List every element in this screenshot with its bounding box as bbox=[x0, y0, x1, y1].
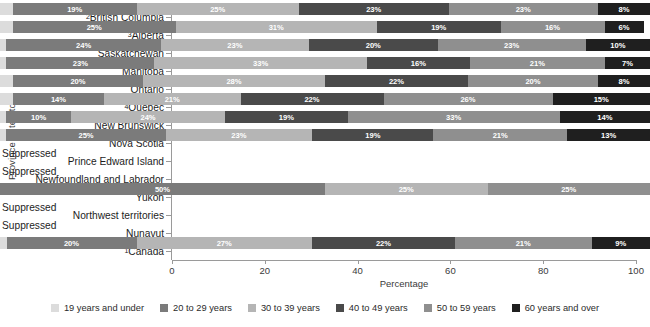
legend-item[interactable]: 40 to 49 years bbox=[336, 303, 408, 313]
bar-segment: 21% bbox=[455, 237, 592, 249]
x-axis-tick bbox=[358, 260, 359, 264]
y-axis-tick bbox=[166, 161, 171, 162]
stacked-bar: 23%33%16%21%7% bbox=[0, 57, 650, 69]
stacked-bar-chart: Province or territory 2British Columbia3… bbox=[0, 0, 650, 327]
y-axis-tick bbox=[166, 251, 171, 252]
bar-segment: 19% bbox=[13, 3, 137, 15]
bar-segment: 8% bbox=[598, 3, 650, 15]
bar-segment: 14% bbox=[560, 111, 650, 123]
stacked-bar: 20%27%22%21%9% bbox=[0, 237, 650, 249]
bar-segment: 25% bbox=[137, 3, 300, 15]
legend-label: 19 years and under bbox=[64, 303, 144, 313]
y-axis-tick bbox=[166, 233, 171, 234]
legend-label: 20 to 29 years bbox=[173, 303, 232, 313]
bar-segment: 19% bbox=[225, 111, 347, 123]
bar-segment: 19% bbox=[377, 21, 501, 33]
legend-item[interactable]: 20 to 29 years bbox=[160, 303, 232, 313]
suppressed-label: Suppressed bbox=[0, 220, 56, 231]
legend-swatch-icon bbox=[512, 304, 520, 312]
x-axis-title: Percentage bbox=[172, 278, 636, 289]
bar-segment: 10% bbox=[6, 111, 70, 123]
x-axis-tick bbox=[265, 260, 266, 264]
stacked-bar: 50%25%25% bbox=[0, 183, 650, 195]
suppressed-label: Suppressed bbox=[0, 166, 56, 177]
bar-segment: 21% bbox=[104, 93, 241, 105]
x-axis-tick bbox=[450, 260, 451, 264]
y-axis-tick bbox=[166, 17, 171, 18]
y-axis-tick bbox=[166, 107, 171, 108]
bar-segment bbox=[0, 21, 13, 33]
bar-segment: 25% bbox=[6, 129, 165, 141]
suppressed-label: Suppressed bbox=[0, 148, 56, 159]
legend-item[interactable]: 50 to 59 years bbox=[424, 303, 496, 313]
bar-segment: 50% bbox=[0, 183, 325, 195]
stacked-bar: 14%21%22%26%15% bbox=[0, 93, 650, 105]
bar-segment: 20% bbox=[7, 237, 137, 249]
bar-segment: 23% bbox=[161, 39, 309, 51]
legend-swatch-icon bbox=[51, 304, 59, 312]
legend-swatch-icon bbox=[248, 304, 256, 312]
bar-segment: 27% bbox=[137, 237, 313, 249]
legend-label: 40 to 49 years bbox=[349, 303, 408, 313]
legend-item[interactable]: 30 to 39 years bbox=[248, 303, 320, 313]
y-axis-tick bbox=[166, 35, 171, 36]
y-axis-tick bbox=[166, 71, 171, 72]
legend-item[interactable]: 60 years and over bbox=[512, 303, 599, 313]
bar-row: Suppressed bbox=[0, 144, 650, 162]
legend-label: 60 years and over bbox=[525, 303, 599, 313]
bar-segment: 15% bbox=[553, 93, 650, 105]
stacked-bar: 20%28%22%20%8% bbox=[0, 75, 650, 87]
plot-area: 19%25%23%23%8%25%31%19%16%6%24%23%20%23%… bbox=[0, 0, 650, 252]
bar-segment: 23% bbox=[449, 3, 599, 15]
bar-row: 19%25%23%23%8% bbox=[0, 0, 650, 18]
bar-segment: 16% bbox=[367, 57, 470, 69]
bar-row: 50%25%25% bbox=[0, 180, 650, 198]
legend-swatch-icon bbox=[424, 304, 432, 312]
bar-segment: 23% bbox=[6, 57, 154, 69]
y-axis-tick bbox=[166, 197, 171, 198]
bar-row: 25%23%19%21%13% bbox=[0, 126, 650, 144]
bar-segment: 31% bbox=[176, 21, 378, 33]
bar-segment bbox=[0, 93, 13, 105]
legend-label: 30 to 39 years bbox=[261, 303, 320, 313]
legend-swatch-icon bbox=[336, 304, 344, 312]
bar-segment: 25% bbox=[13, 21, 176, 33]
bar-segment: 33% bbox=[348, 111, 560, 123]
legend-swatch-icon bbox=[160, 304, 168, 312]
y-axis-tick bbox=[166, 53, 171, 54]
y-axis-tick bbox=[166, 125, 171, 126]
bar-segment: 24% bbox=[6, 39, 160, 51]
x-axis-tick bbox=[636, 260, 637, 264]
y-axis-tick bbox=[166, 215, 171, 216]
bar-row: 20%28%22%20%8% bbox=[0, 72, 650, 90]
x-axis-tick-label: 40 bbox=[352, 265, 363, 276]
bar-segment: 26% bbox=[384, 93, 553, 105]
x-axis-tick bbox=[543, 260, 544, 264]
bar-segment: 21% bbox=[470, 57, 605, 69]
stacked-bar: 25%23%19%21%13% bbox=[0, 129, 650, 141]
bar-segment: 7% bbox=[605, 57, 650, 69]
bar-segment: 6% bbox=[605, 21, 644, 33]
bar-row: 23%33%16%21%7% bbox=[0, 54, 650, 72]
stacked-bar: 25%31%19%16%6% bbox=[0, 21, 650, 33]
bar-segment: 13% bbox=[567, 129, 650, 141]
bar-segment: 16% bbox=[501, 21, 605, 33]
bar-segment: 22% bbox=[325, 75, 468, 87]
bar-row: Suppressed bbox=[0, 216, 650, 234]
x-axis-tick-labels: 020406080100 bbox=[172, 265, 636, 279]
stacked-bar: 24%23%20%23%10% bbox=[0, 39, 650, 51]
bar-segment: 9% bbox=[592, 237, 650, 249]
legend-item[interactable]: 19 years and under bbox=[51, 303, 144, 313]
bar-segment bbox=[0, 75, 13, 87]
bar-row: 25%31%19%16%6% bbox=[0, 18, 650, 36]
bar-segment: 24% bbox=[71, 111, 225, 123]
bar-segment: 21% bbox=[433, 129, 567, 141]
bar-segment: 22% bbox=[312, 237, 455, 249]
x-axis-tick-label: 0 bbox=[169, 265, 174, 276]
x-axis-tick-label: 80 bbox=[538, 265, 549, 276]
bar-segment: 20% bbox=[468, 75, 598, 87]
x-axis-tick-label: 60 bbox=[445, 265, 456, 276]
bar-segment: 23% bbox=[166, 129, 313, 141]
bar-segment: 19% bbox=[312, 129, 433, 141]
bar-segment bbox=[0, 3, 13, 15]
